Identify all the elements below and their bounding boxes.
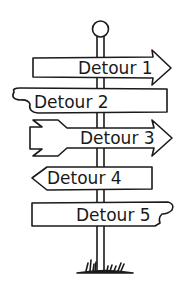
sign-detour-5-label: Detour 5 [76, 205, 151, 225]
grass-icon [77, 260, 133, 273]
sign-detour-2-label: Detour 2 [34, 92, 109, 112]
sign-detour-1: Detour 1 [33, 50, 171, 85]
signpost-drawing: Detour 1 Detour 2 Detour 3 Detour 4 Deto… [0, 0, 182, 293]
sign-detour-4: Detour 4 [32, 167, 152, 190]
sign-detour-1-label: Detour 1 [78, 58, 153, 78]
sign-detour-3-label: Detour 3 [80, 128, 155, 148]
sign-detour-3: Detour 3 [30, 120, 172, 156]
signpost-illustration: Detour 1 Detour 2 Detour 3 Detour 4 Deto… [0, 0, 182, 293]
sign-detour-5: Detour 5 [32, 202, 173, 226]
sign-detour-4-label: Detour 4 [47, 168, 122, 188]
pole-finial-icon [93, 21, 109, 37]
sign-detour-2: Detour 2 [13, 88, 167, 113]
